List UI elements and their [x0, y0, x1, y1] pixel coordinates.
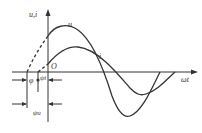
i-curve-label: i — [99, 52, 101, 61]
i-curve — [48, 47, 175, 95]
arrow-icon — [48, 102, 53, 106]
y-axis-label: u,i — [29, 10, 37, 19]
x-axis-label: ωt — [181, 75, 190, 84]
u-curve-label: u — [68, 20, 72, 29]
arrow-icon — [22, 102, 27, 106]
u-curve-dashed — [27, 36, 48, 72]
psi-u-label: ψu — [33, 109, 41, 117]
y-axis-arrow-icon — [46, 9, 51, 16]
arrow-icon — [48, 78, 53, 82]
arrow-icon — [22, 78, 27, 82]
x-axis-arrow-icon — [191, 70, 198, 75]
phi-label: φ — [29, 76, 34, 85]
psi-i-label: ψi — [40, 74, 46, 82]
origin-label: O — [51, 62, 57, 71]
u-curve — [48, 26, 160, 117]
i-curve-dashed — [38, 64, 48, 72]
phase-diagram: u,i ωt O u i φ ψi ψu — [0, 0, 202, 133]
